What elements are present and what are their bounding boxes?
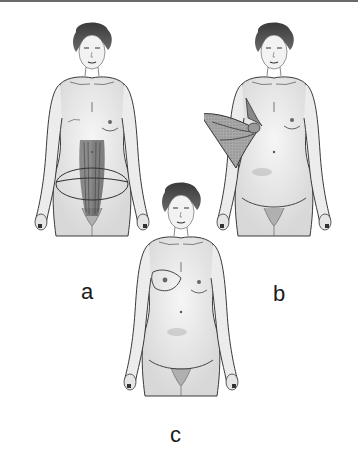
top-border — [0, 0, 358, 2]
panel-label-a: a — [81, 281, 93, 303]
panel-label-b: b — [273, 283, 285, 305]
figure-c-illustration — [111, 182, 251, 398]
figure-panel-c — [111, 182, 251, 398]
panel-label-c: c — [170, 424, 181, 446]
